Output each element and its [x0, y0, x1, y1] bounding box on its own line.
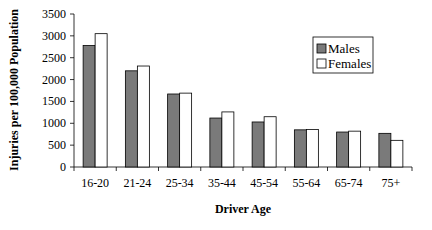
y-axis: 0500100015002000250030003500 — [42, 7, 74, 174]
x-axis-title: Driver Age — [215, 202, 272, 216]
bar-females-35-44 — [222, 112, 234, 167]
bar-females-55-64 — [306, 129, 318, 167]
y-tick-label: 1500 — [42, 94, 66, 108]
legend-swatch-females — [317, 59, 326, 68]
bar-males-75+ — [379, 133, 391, 167]
y-tick-label: 1000 — [42, 116, 66, 130]
bar-females-65-74 — [349, 131, 361, 167]
bar-males-45-54 — [252, 122, 264, 167]
bar-males-55-64 — [294, 130, 306, 167]
x-tick-label: 21-24 — [123, 176, 151, 190]
y-tick-label: 2000 — [42, 73, 66, 87]
x-tick-label: 55-64 — [292, 176, 320, 190]
bar-males-65-74 — [337, 132, 349, 167]
bar-females-21-24 — [137, 66, 149, 167]
bar-females-25-34 — [180, 93, 192, 167]
x-tick-label: 65-74 — [335, 176, 363, 190]
x-tick-label: 25-34 — [166, 176, 194, 190]
legend-label-males: Males — [328, 41, 360, 56]
x-tick-label: 16-20 — [81, 176, 109, 190]
bar-females-75+ — [391, 140, 403, 167]
legend-swatch-males — [317, 44, 326, 53]
y-tick-label: 2500 — [42, 51, 66, 65]
y-tick-label: 3500 — [42, 7, 66, 21]
bar-females-45-54 — [264, 117, 276, 167]
x-tick-label: 35-44 — [208, 176, 236, 190]
bar-females-16-20 — [95, 34, 107, 167]
bar-chart: 0500100015002000250030003500 16-2021-242… — [0, 0, 432, 230]
x-axis: 16-2021-2425-3435-4445-5455-6465-7475+ — [74, 167, 412, 190]
bar-males-16-20 — [83, 45, 95, 167]
y-tick-label: 500 — [48, 138, 66, 152]
bar-males-25-34 — [168, 94, 180, 167]
y-tick-label: 3000 — [42, 29, 66, 43]
x-tick-label: 75+ — [381, 176, 400, 190]
x-tick-label: 45-54 — [250, 176, 278, 190]
bar-males-21-24 — [125, 71, 137, 167]
bar-males-35-44 — [210, 118, 222, 167]
y-tick-label: 0 — [60, 160, 66, 174]
legend-label-females: Females — [328, 56, 371, 71]
legend: Males Females — [313, 37, 373, 73]
y-axis-title: Injuries per 100,000 Population — [7, 9, 21, 171]
